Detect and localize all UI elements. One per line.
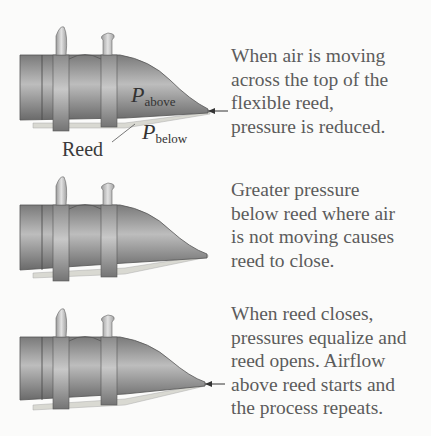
ligature-screw [56,27,67,55]
ligature-screw [56,177,67,205]
ligature-screw [101,315,114,337]
caption-panel-3: When reed closes, pressures equalize and… [231,302,406,420]
ligature-screw [101,183,114,205]
airflow-arrow-icon [208,108,228,114]
mouthpiece-illustration [0,150,230,290]
panel-reed-reopening: When reed closes, pressures equalize and… [0,282,431,436]
ligature-band [101,337,117,405]
p-below-label: Pbelow [142,119,187,147]
ligature-band [53,55,69,131]
mouthpiece-illustration [0,282,230,436]
caption-panel-1: When air is moving across the top of the… [231,44,388,138]
ligature-band [101,205,117,277]
ligature-screw [56,309,67,337]
ligature-band [101,55,117,127]
airflow-arrow-icon [205,381,225,387]
mouthpiece-illustration [0,0,230,150]
panel-reed-closed: Greater pressure below reed where air is… [0,150,431,290]
ligature-screw [101,33,114,55]
ligature-band [53,205,69,281]
caption-panel-2: Greater pressure below reed where air is… [231,178,395,272]
ligature-band [53,337,69,409]
panel-reed-open: Pabove Pbelow Reed When air is moving ac… [0,0,431,150]
p-above-label: Pabove [131,82,176,110]
